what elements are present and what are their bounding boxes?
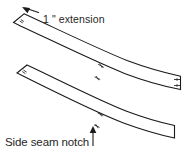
notch-lower-mid-inner <box>94 124 100 128</box>
notch-upper-mid-inner <box>95 76 101 80</box>
side-seam-notch-label: Side seam notch <box>5 136 89 148</box>
extension-label: 1 " extension <box>43 13 105 25</box>
side-seam-arrow-head-icon <box>90 126 97 133</box>
pattern-diagram-page: 1 " extension Side seam notch <box>0 0 195 159</box>
pattern-diagram-canvas: 1 " extension Side seam notch <box>0 0 195 159</box>
extension-arrow-head-icon <box>22 7 30 13</box>
